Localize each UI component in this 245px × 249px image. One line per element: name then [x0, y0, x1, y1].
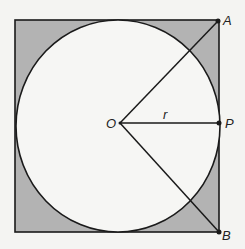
label-A: A	[222, 13, 232, 28]
point-O	[119, 122, 122, 125]
label-O: O	[106, 116, 116, 131]
point-P	[217, 121, 222, 126]
label-B: B	[222, 228, 231, 243]
label-r: r	[163, 107, 168, 122]
point-B	[217, 230, 222, 235]
point-A	[216, 19, 221, 24]
label-P: P	[225, 116, 234, 131]
geometry-diagram: O A P B r	[0, 0, 245, 249]
